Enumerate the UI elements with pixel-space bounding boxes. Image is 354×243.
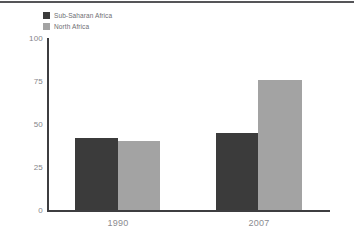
bar-2007-sub-saharan-africa <box>216 133 258 210</box>
x-axis-line <box>47 210 330 212</box>
y-axis-line <box>47 38 49 210</box>
y-axis-tick-label: 0 <box>38 206 43 215</box>
legend-item-sub-saharan-africa: Sub-Saharan Africa <box>43 11 112 20</box>
legend-swatch-icon <box>43 12 50 19</box>
x-axis-tick-label-1990: 1990 <box>107 218 128 229</box>
legend-label: North Africa <box>54 23 89 31</box>
y-axis-tick-label: 50 <box>34 120 43 129</box>
bar-chart-figure: Sub-Saharan Africa North Africa 100 75 5… <box>0 0 354 243</box>
y-axis-tick-label: 100 <box>29 34 43 43</box>
bar-1990-sub-saharan-africa <box>75 138 118 210</box>
top-divider-rule <box>0 1 354 3</box>
bar-1990-north-africa <box>118 141 160 210</box>
legend-item-north-africa: North Africa <box>43 22 112 31</box>
legend-swatch-icon <box>43 23 50 30</box>
plot-area: 100 75 50 25 0 1990 2007 <box>47 38 330 210</box>
legend-label: Sub-Saharan Africa <box>54 12 112 20</box>
chart-legend: Sub-Saharan Africa North Africa <box>43 11 112 31</box>
x-axis-tick-label-2007: 2007 <box>248 218 269 229</box>
y-axis-tick-label: 75 <box>34 77 43 86</box>
y-axis-tick-label: 25 <box>34 163 43 172</box>
bar-2007-north-africa <box>258 80 302 210</box>
